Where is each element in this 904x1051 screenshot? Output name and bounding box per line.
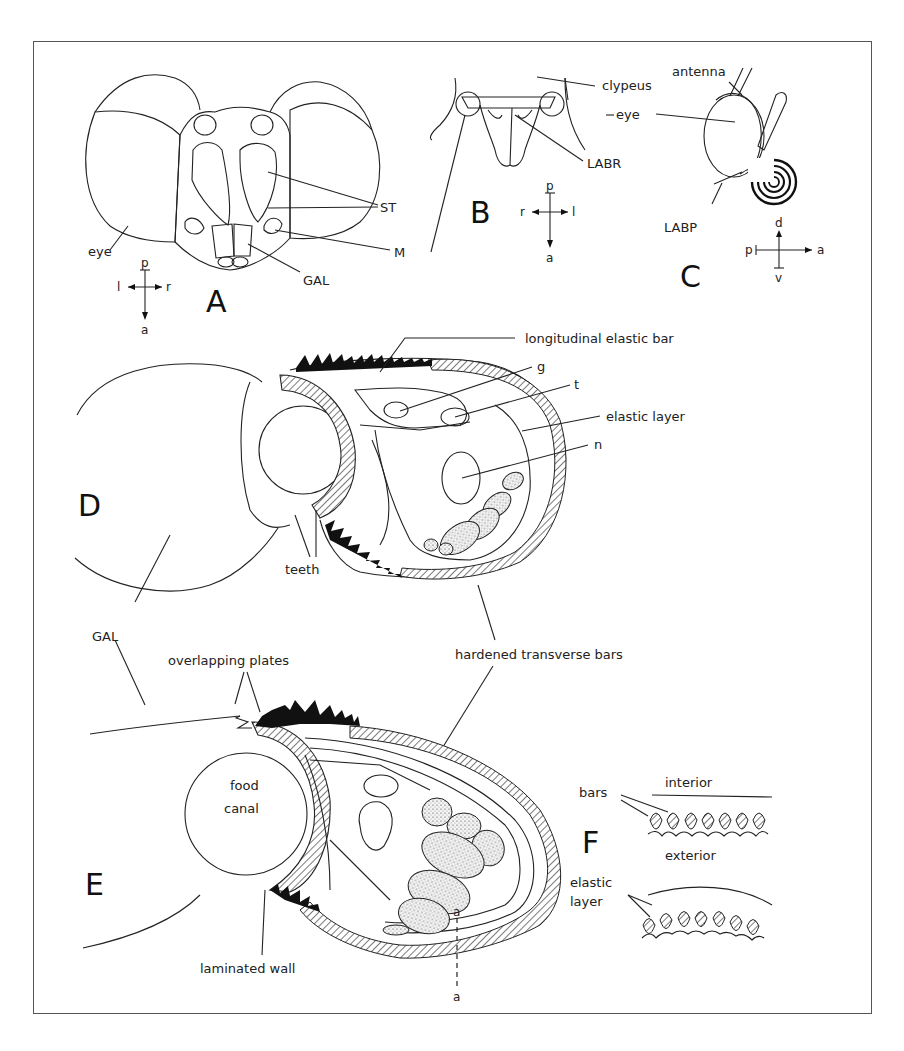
top-teeth-d (296, 353, 432, 372)
left-eye-outline (86, 111, 180, 242)
label-interior: interior (665, 775, 713, 790)
label-elastic-layer: elastic layer (606, 409, 686, 424)
label-teeth: teeth (285, 562, 319, 577)
antenna (730, 68, 752, 96)
tracheae-d (424, 469, 527, 562)
mandible-left (185, 218, 204, 234)
label-exterior: exterior (665, 848, 716, 863)
label-m: M (394, 245, 405, 260)
panel-b-mouthparts: clypeus LABR B p a r l (430, 77, 652, 265)
label-food: food (230, 778, 259, 793)
panel-d-cross-section: longitudinal elastic bar g t elastic lay… (75, 331, 686, 591)
right-eye-outline (290, 103, 380, 239)
label-gal-a: GAL (303, 273, 330, 288)
panel-a-head-frontal: eye ST M GAL p a l r A (86, 75, 405, 337)
mandible-b-left (456, 92, 480, 116)
n-nerve (442, 452, 480, 504)
panel-e-cross-section: a a overlapping plates food canal lamina… (83, 653, 561, 1004)
galea-right (234, 224, 252, 256)
orientation-axes-a: p a l r (117, 256, 171, 337)
elastic-layer-arc (648, 887, 772, 905)
st-left (192, 143, 230, 226)
label-antenna: antenna (672, 64, 726, 79)
laminated-wall-d (280, 375, 355, 518)
panel-letter-c: C (680, 259, 701, 294)
label-section-bottom: a (453, 990, 460, 1004)
svg-text:a: a (546, 251, 553, 265)
label-g: g (537, 359, 545, 374)
svg-text:p: p (745, 243, 753, 257)
trachea-e-small (364, 775, 398, 797)
interior-line (652, 795, 772, 797)
svg-text:p: p (546, 179, 554, 193)
label-labr: LABR (587, 156, 621, 171)
label-st: ST (380, 200, 396, 215)
svg-text:p: p (141, 256, 149, 270)
label-section-top: a (453, 905, 460, 919)
svg-text:r: r (166, 280, 171, 294)
panel-f-bar-arrangement: interior bars exterior elastic layer F (570, 775, 772, 940)
labrum-left (480, 105, 512, 166)
label-elastic: elastic (570, 875, 612, 890)
orientation-axes-c: d v p a (745, 216, 824, 285)
label-canal: canal (224, 801, 259, 816)
svg-text:r: r (520, 205, 525, 219)
label-laminated-wall: laminated wall (200, 961, 295, 976)
panel-letter-e: E (85, 867, 104, 902)
svg-text:l: l (117, 280, 120, 294)
svg-text:a: a (817, 243, 824, 257)
svg-text:d: d (775, 216, 783, 230)
tracheae-e (383, 798, 509, 939)
label-n: n (594, 437, 602, 452)
label-gal-shared: GAL (92, 629, 119, 644)
panel-c-head-lateral: antenna eye LABP C d v p a (606, 64, 824, 294)
head-capsule (175, 108, 290, 271)
label-hardened-transverse-bars: hardened transverse bars (455, 647, 623, 662)
label-clypeus: clypeus (602, 78, 652, 93)
orientation-axes-b: p a r l (520, 179, 575, 265)
antenna-socket-left (194, 115, 216, 135)
coiled-proboscis (748, 158, 796, 204)
bars-lower-row (642, 912, 764, 941)
panel-letter-b: B (470, 195, 491, 230)
laminated-wall-e (252, 722, 330, 892)
svg-text:a: a (141, 323, 148, 337)
st-right (240, 143, 276, 222)
overlapping-plates-top (255, 700, 360, 728)
bars-upper-row (648, 813, 768, 836)
proboscis-anatomy-figure: eye ST M GAL p a l r A c (0, 0, 904, 1051)
label-overlapping-plates: overlapping plates (168, 653, 289, 668)
svg-text:v: v (775, 271, 782, 285)
label-eye-c: eye (616, 107, 640, 122)
label-eye-a: eye (88, 244, 112, 259)
label-longitudinal-elastic-bar: longitudinal elastic bar (525, 331, 674, 346)
panel-letter-a: A (206, 284, 227, 319)
label-labp: LABP (664, 220, 697, 235)
panel-letter-f: F (582, 825, 599, 860)
bottom-teeth-d (325, 520, 402, 578)
svg-text:l: l (572, 205, 575, 219)
label-bars: bars (579, 785, 608, 800)
antenna-socket-right (251, 115, 273, 135)
galea-outline-d-top (77, 364, 262, 415)
label-layer: layer (570, 894, 603, 909)
label-t: t (574, 377, 579, 392)
panel-letter-d: D (78, 488, 101, 523)
galea-outline-d-bottom (75, 528, 278, 591)
galea-left (212, 224, 234, 258)
nerve-e (359, 802, 392, 850)
